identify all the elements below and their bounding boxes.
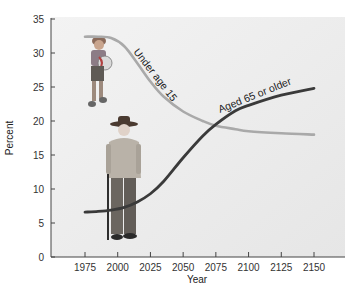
y-tick-label: 10: [33, 184, 45, 195]
x-tick-label: 2025: [139, 262, 162, 273]
x-tick-label: 2100: [237, 262, 260, 273]
y-tick-label: 15: [33, 150, 45, 161]
population-age-chart: Under age 15Aged 65 or older 05101520253…: [0, 0, 354, 299]
y-tick-label: 25: [33, 82, 45, 93]
x-axis-title: Year: [187, 274, 208, 285]
y-axis-title: Percent: [4, 121, 15, 156]
y-tick-label: 20: [33, 116, 45, 127]
x-tick-label: 2000: [107, 262, 130, 273]
x-tick-label: 2150: [303, 262, 326, 273]
x-tick-label: 2125: [270, 262, 293, 273]
x-tick-label: 1975: [74, 262, 97, 273]
y-tick-label: 30: [33, 48, 45, 59]
x-tick-label: 2050: [172, 262, 195, 273]
y-tick-label: 0: [38, 252, 44, 263]
x-tick-label: 2075: [205, 262, 228, 273]
y-tick-label: 35: [33, 14, 45, 25]
y-tick-label: 5: [38, 218, 44, 229]
